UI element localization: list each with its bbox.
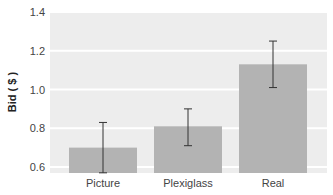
x-tick-label: Plexiglass <box>163 177 213 189</box>
x-tick-label: Picture <box>86 177 120 189</box>
y-tick-label: 0.8 <box>30 122 45 134</box>
x-tick-label: Real <box>262 177 285 189</box>
y-tick-label: 1.4 <box>30 6 45 18</box>
y-axis-ticks: 0.60.81.01.21.4 <box>30 6 45 173</box>
bar-chart: 0.60.81.01.21.4 PicturePlexiglassReal Bi… <box>0 0 333 195</box>
y-tick-label: 1.0 <box>30 84 45 96</box>
y-tick-label: 1.2 <box>30 45 45 57</box>
x-axis-labels: PicturePlexiglassReal <box>86 177 284 189</box>
y-axis-label: Bid ( $ ) <box>6 72 18 113</box>
y-tick-label: 0.6 <box>30 161 45 173</box>
